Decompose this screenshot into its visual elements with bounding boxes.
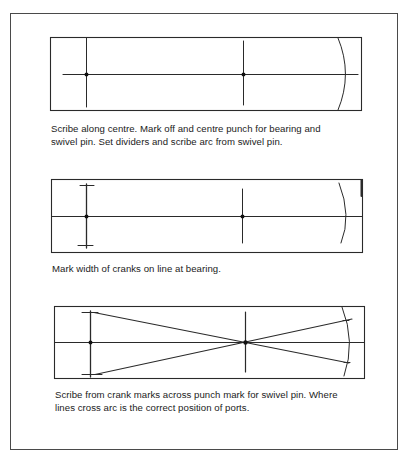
diagram-step-3 [55, 307, 365, 379]
step-3-caption: Scribe from crank marks across punch mar… [55, 388, 385, 414]
caption-line: swivel pin. Set dividers and scribe arc … [51, 135, 381, 148]
divider-arc [339, 183, 346, 243]
step-2-caption: Mark width of cranks on line at bearing. [52, 262, 382, 275]
step-1-caption: Scribe along centre. Mark off and centre… [51, 122, 381, 148]
diagram-step-2 [52, 180, 363, 253]
scribe-line-top-crank [94, 313, 349, 364]
swivel-pin-punch-mark [243, 340, 247, 344]
bearing-punch-mark [85, 73, 89, 77]
caption-line: Scribe along centre. Mark off and centre… [51, 122, 381, 135]
bearing-punch-mark [89, 341, 93, 345]
divider-arc [342, 307, 350, 376]
caption-line: lines cross arc is the correct position … [55, 401, 385, 414]
caption-line: Mark width of cranks on line at bearing. [52, 262, 382, 275]
scribe-line-bottom-crank [95, 319, 352, 375]
caption-line: Scribe from crank marks across punch mar… [55, 388, 385, 401]
swivel-pin-punch-mark [241, 215, 245, 219]
diagram-step-1 [51, 38, 362, 111]
bearing-punch-mark [85, 215, 89, 219]
swivel-pin-punch-mark [242, 73, 246, 77]
